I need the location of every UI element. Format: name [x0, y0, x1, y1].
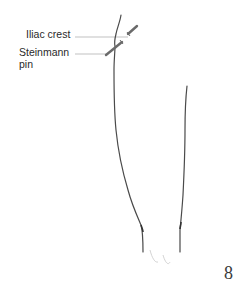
- steinmann-pin-label-line2: pin: [19, 58, 69, 70]
- steinmann-pin-label-line1: Steinmann: [19, 46, 69, 58]
- steinmann-pin-label: Steinmann pin: [19, 46, 69, 70]
- iliac-pin-upper: [128, 26, 137, 34]
- knee-mark-right: [180, 222, 181, 229]
- figure-illustration: Iliac crest Steinmann pin 8: [0, 0, 252, 295]
- figure-number: 8: [224, 263, 233, 284]
- steinmann-pin: [106, 42, 122, 55]
- limb-left-contour: [114, 15, 143, 252]
- leg-outline-drawing: [0, 0, 252, 295]
- foot-sketch-shading: [150, 250, 170, 264]
- iliac-crest-label: Iliac crest: [26, 28, 70, 40]
